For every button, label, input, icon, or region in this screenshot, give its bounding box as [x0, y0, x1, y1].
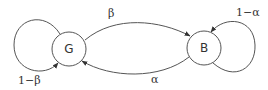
edge-label-alpha: α [151, 74, 158, 85]
edge-g-self [14, 20, 60, 71]
edge-label-one-minus-beta: 1−β [18, 75, 41, 86]
edge-b-to-g [82, 57, 189, 74]
edge-label-one-minus-alpha: 1−α [236, 7, 260, 18]
node-g-label: G [64, 43, 73, 55]
node-b-label: B [200, 42, 208, 54]
edge-b-self [211, 21, 255, 71]
edge-label-beta: β [108, 8, 114, 19]
edge-g-to-b [85, 23, 190, 40]
